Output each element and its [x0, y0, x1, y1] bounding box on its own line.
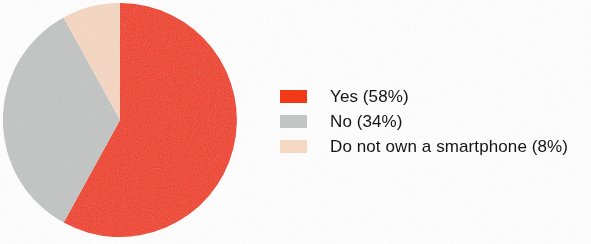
legend-swatch-yes	[280, 90, 307, 103]
legend-label-no: No (34%)	[330, 112, 403, 131]
pie-chart-graphic	[3, 3, 237, 237]
legend-swatch-do-not-own-a-smartphone	[280, 140, 307, 153]
pie-chart-figure: Yes (58%) No (34%) Do not own a smartpho…	[0, 0, 591, 244]
legend-item-do-not-own-a-smartphone: Do not own a smartphone (8%)	[280, 134, 585, 159]
legend-item-yes: Yes (58%)	[280, 84, 585, 109]
chart-legend: Yes (58%) No (34%) Do not own a smartpho…	[280, 84, 585, 159]
legend-swatch-no	[280, 115, 307, 128]
legend-item-no: No (34%)	[280, 109, 585, 134]
legend-label-yes: Yes (58%)	[330, 87, 409, 106]
pie-svg	[3, 3, 237, 237]
legend-label-do-not-own-a-smartphone: Do not own a smartphone (8%)	[330, 137, 568, 156]
